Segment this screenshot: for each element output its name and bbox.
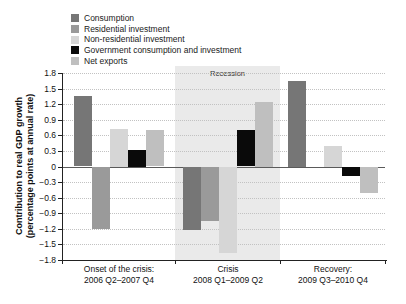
category-label-line1: Recovery: (268, 264, 398, 275)
legend-item-label: Net exports (84, 57, 127, 66)
bar-non-residential-investment-period-2 (219, 167, 237, 253)
gridline (63, 104, 385, 105)
y-tick-label: 0.9 (26, 116, 56, 125)
bar-residential-investment-period-2 (201, 167, 219, 221)
gridline (63, 120, 385, 121)
bar-consumption-period-2 (183, 167, 201, 230)
bar-government-consumption-and-investment-period-3 (342, 167, 360, 176)
bar-consumption-period-1 (74, 96, 92, 166)
legend-item-government-consumption-and-investment: Government consumption and investment (71, 45, 241, 56)
legend-item-label: Consumption (84, 14, 134, 23)
y-axis-line (62, 73, 63, 260)
legend-swatch-icon (71, 46, 79, 54)
bar-consumption-period-3 (288, 81, 306, 167)
legend-item-consumption: Consumption (71, 13, 241, 24)
bar-net-exports-period-1 (146, 130, 164, 166)
legend-swatch-icon (71, 25, 79, 33)
legend-item-label: Residential investment (84, 25, 170, 34)
legend-item-residential-investment: Residential investment (71, 24, 241, 35)
y-tick-label: −0.9 (26, 209, 56, 218)
legend-swatch-icon (71, 57, 79, 65)
bar-net-exports-period-2 (255, 102, 273, 167)
bar-residential-investment-period-1 (92, 167, 110, 229)
legend-item-net-exports: Net exports (71, 56, 241, 67)
y-axis-title-line1: Contribution to real GDP growth (14, 97, 24, 235)
y-tick-label: −0.6 (26, 194, 56, 203)
x-category-label-3: Recovery:2009 Q3–2010 Q4 (268, 264, 398, 286)
bar-non-residential-investment-period-1 (110, 129, 128, 167)
y-tick-label: −1.5 (26, 240, 56, 249)
legend-swatch-icon (71, 14, 79, 22)
legend-item-label: Non-residential investment (84, 35, 185, 44)
y-tick-label: 0.6 (26, 131, 56, 140)
gridline (63, 89, 385, 90)
bar-government-consumption-and-investment-period-2 (237, 130, 255, 166)
chart-legend: ConsumptionResidential investmentNon-res… (71, 13, 241, 66)
y-tick-label: 1.5 (26, 85, 56, 94)
legend-item-label: Government consumption and investment (84, 46, 241, 55)
y-tick-label: 1.8 (26, 69, 56, 78)
y-tick-label: −1.2 (26, 225, 56, 234)
y-tick-label: −0.3 (26, 178, 56, 187)
legend-item-non-residential-investment: Non-residential investment (71, 34, 241, 45)
legend-swatch-icon (71, 36, 79, 44)
x-axis-line (62, 260, 387, 261)
y-tick-label: −1.8 (26, 256, 56, 265)
y-tick-label: 0.3 (26, 147, 56, 156)
category-label-line2: 2009 Q3–2010 Q4 (268, 275, 398, 286)
gridline (63, 73, 385, 74)
y-tick-label: 0 (26, 163, 56, 172)
gdp-contribution-chart: ConsumptionResidential investmentNon-res… (0, 0, 406, 304)
bar-non-residential-investment-period-3 (324, 146, 342, 167)
y-tick-label: 1.2 (26, 100, 56, 109)
bar-net-exports-period-3 (360, 167, 378, 193)
bar-government-consumption-and-investment-period-1 (128, 150, 146, 167)
